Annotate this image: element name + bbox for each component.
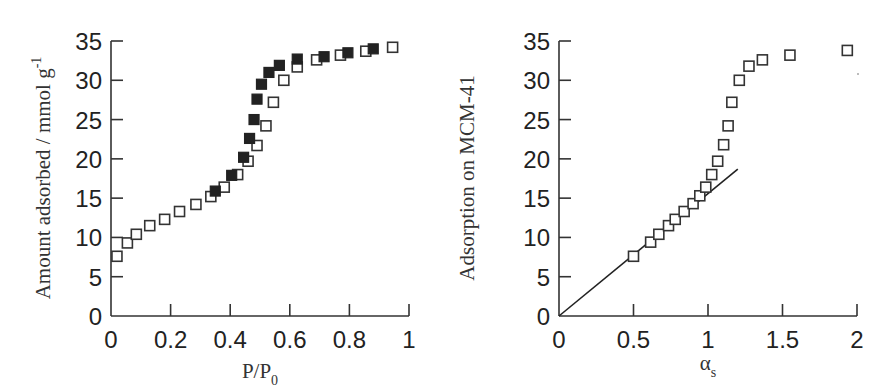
y-tick-label: 35 bbox=[75, 28, 102, 55]
filled-square-marker bbox=[368, 44, 378, 54]
y-tick-label: 10 bbox=[75, 224, 102, 251]
series-0 bbox=[112, 42, 398, 261]
y-tick-label: 20 bbox=[75, 146, 102, 173]
open-square-marker bbox=[629, 251, 639, 261]
open-square-marker bbox=[713, 156, 723, 166]
y-tick-label: 15 bbox=[523, 185, 550, 212]
y-tick-label: 5 bbox=[537, 264, 550, 291]
x-tick-label: 1 bbox=[402, 326, 415, 353]
y-tick-label: 25 bbox=[523, 107, 550, 134]
open-square-marker bbox=[261, 121, 271, 131]
filled-square-marker bbox=[256, 79, 266, 89]
filled-square-marker bbox=[249, 115, 259, 125]
y-tick-label: 5 bbox=[89, 264, 102, 291]
x-tick-label: 1 bbox=[701, 326, 714, 353]
filled-square-marker bbox=[252, 94, 262, 104]
y-tick-label: 15 bbox=[75, 185, 102, 212]
filled-square-marker bbox=[239, 152, 249, 162]
y-tick-label: 0 bbox=[537, 303, 550, 330]
open-square-marker bbox=[112, 251, 122, 261]
open-square-marker bbox=[727, 97, 737, 107]
isotherm-chart: 0510152025303500.20.40.60.81Amount adsor… bbox=[29, 28, 416, 388]
filled-square-marker bbox=[210, 186, 220, 196]
open-square-marker bbox=[654, 229, 664, 239]
y-tick-label: 30 bbox=[75, 67, 102, 94]
open-square-marker bbox=[757, 55, 767, 65]
filled-square-marker bbox=[274, 60, 284, 70]
filled-square-marker bbox=[227, 170, 237, 180]
y-tick-label: 30 bbox=[523, 67, 550, 94]
x-tick-label: 1.5 bbox=[766, 326, 799, 353]
chart-canvas: 0510152025303500.20.40.60.81Amount adsor… bbox=[0, 0, 896, 392]
y-axis-title: Amount adsorbed / mmol g-1 bbox=[29, 57, 55, 300]
series-0 bbox=[629, 45, 853, 261]
open-square-marker bbox=[723, 121, 733, 131]
open-square-marker bbox=[701, 182, 711, 192]
open-square-marker bbox=[707, 170, 717, 180]
y-tick-label: 20 bbox=[523, 146, 550, 173]
open-square-marker bbox=[719, 140, 729, 150]
filled-square-marker bbox=[292, 54, 302, 64]
y-tick-label: 35 bbox=[523, 28, 550, 55]
open-square-marker bbox=[191, 199, 201, 209]
open-square-marker bbox=[734, 75, 744, 85]
y-tick-label: 10 bbox=[523, 224, 550, 251]
x-tick-label: 2 bbox=[850, 326, 863, 353]
y-tick-label: 0 bbox=[89, 303, 102, 330]
artifact-dot bbox=[857, 73, 859, 75]
x-axis-title: P/P0 bbox=[242, 359, 278, 388]
open-square-marker bbox=[175, 207, 185, 217]
open-square-marker bbox=[145, 221, 155, 231]
open-square-marker bbox=[160, 214, 170, 224]
x-tick-label: 0.5 bbox=[617, 326, 650, 353]
filled-square-marker bbox=[245, 133, 255, 143]
x-axis-title: αs bbox=[700, 351, 716, 380]
open-square-marker bbox=[842, 45, 852, 55]
x-tick-label: 0 bbox=[104, 326, 117, 353]
filled-square-marker bbox=[319, 52, 329, 62]
filled-square-marker bbox=[264, 67, 274, 77]
open-square-marker bbox=[268, 97, 278, 107]
x-tick-label: 0.8 bbox=[333, 326, 366, 353]
open-square-marker bbox=[785, 50, 795, 60]
filled-square-marker bbox=[343, 48, 353, 58]
alpha-s-chart: 0510152025303500.511.52Adsorption on MCM… bbox=[455, 28, 864, 380]
x-tick-label: 0 bbox=[552, 326, 565, 353]
open-square-marker bbox=[388, 42, 398, 52]
x-tick-label: 0.4 bbox=[214, 326, 247, 353]
y-axis-title: Adsorption on MCM-41 bbox=[455, 75, 479, 280]
y-tick-label: 25 bbox=[75, 107, 102, 134]
x-tick-label: 0.2 bbox=[154, 326, 187, 353]
x-tick-label: 0.6 bbox=[273, 326, 306, 353]
open-square-marker bbox=[279, 75, 289, 85]
open-square-marker bbox=[131, 229, 141, 239]
open-square-marker bbox=[744, 61, 754, 71]
